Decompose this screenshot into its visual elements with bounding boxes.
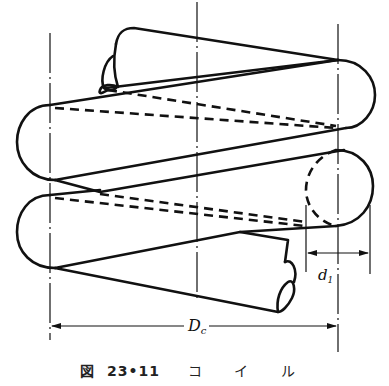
hidden-strand-4 (100, 194, 306, 222)
left-upper-loop (17, 105, 55, 180)
caption-prefix: 図 (80, 363, 95, 379)
wire-diameter-label: d1 (318, 266, 333, 285)
caption-number: 23•11 (107, 363, 160, 379)
right-upper-loop (338, 60, 375, 128)
coil-spring-diagram: d1 Dc (0, 0, 389, 386)
left-lower-loop (17, 195, 55, 268)
coil-diameter-label: Dc (187, 316, 207, 336)
front-strand-1a (50, 60, 338, 105)
right-middle-loop (336, 150, 373, 226)
front-strand-3 (55, 226, 336, 268)
caption-title: コ イ ル (188, 363, 309, 379)
front-strand-1b (55, 128, 346, 180)
bottom-cut-loop (285, 261, 295, 282)
top-wire-end (116, 28, 338, 60)
wire-section-dashed (306, 150, 336, 226)
figure-caption: 図 23•11 コ イ ル (0, 360, 389, 380)
hidden-strand-1 (55, 108, 336, 128)
hidden-strand-3 (55, 198, 305, 226)
bottom-wire-top-edge (240, 232, 288, 262)
bottom-wire-end (277, 281, 294, 312)
front-strand-3b (55, 268, 278, 312)
front-strand-2b (50, 190, 100, 195)
